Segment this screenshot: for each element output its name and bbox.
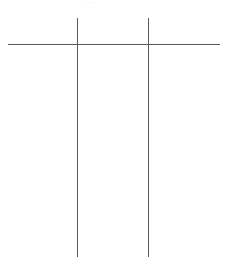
vertical-rule-left bbox=[77, 18, 78, 257]
vertical-rule-right bbox=[148, 18, 149, 257]
column-region-2 bbox=[77, 44, 148, 257]
diagram-canvas: —— bbox=[0, 0, 227, 261]
clipped-text-fragment: —— bbox=[84, 0, 94, 5]
horizontal-rule bbox=[8, 44, 220, 45]
column-region-1 bbox=[8, 44, 77, 257]
column-region-3 bbox=[148, 44, 220, 257]
